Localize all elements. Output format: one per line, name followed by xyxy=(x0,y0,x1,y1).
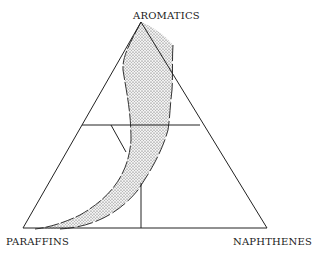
ternary-diagram xyxy=(0,0,321,260)
label-paraffins: PARAFFINS xyxy=(6,236,69,247)
label-aromatics: AROMATICS xyxy=(133,10,200,21)
label-naphthenes: NAPHTHENES xyxy=(233,236,312,247)
diagonal-divider xyxy=(111,125,126,152)
